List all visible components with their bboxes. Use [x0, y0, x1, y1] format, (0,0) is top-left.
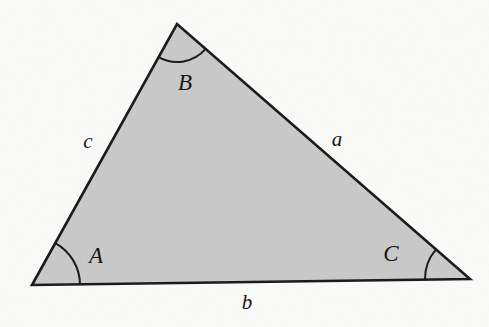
paper-grain-overlay	[0, 0, 489, 327]
triangle-figure-canvas: A B C a b c	[0, 0, 489, 327]
triangle-diagram: A B C a b c	[0, 0, 489, 327]
